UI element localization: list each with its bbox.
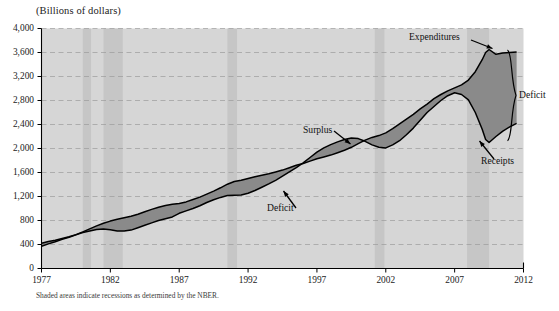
x-tick-label-2012: 2012	[502, 275, 546, 285]
x-tick-label-1997: 1997	[295, 275, 339, 285]
x-tick-label-2002: 2002	[364, 275, 408, 285]
y-tick-label-0: 0	[0, 263, 34, 273]
y-tick-label-4000: 4,000	[0, 23, 34, 33]
y-tick-label-800: 800	[0, 215, 34, 225]
y-tick-label-2800: 2,800	[0, 95, 34, 105]
x-tick-label-1977: 1977	[20, 275, 64, 285]
y-tick-label-3200: 3,200	[0, 71, 34, 81]
y-tick-label-3600: 3,600	[0, 47, 34, 57]
y-tick-label-2000: 2,000	[0, 143, 34, 153]
y-tick-label-1600: 1,600	[0, 167, 34, 177]
annotation-receipts: Receipts	[481, 155, 514, 166]
x-tick-label-1992: 1992	[226, 275, 270, 285]
x-tick-label-2007: 2007	[433, 275, 477, 285]
chart-canvas	[0, 0, 559, 311]
y-tick-label-400: 400	[0, 239, 34, 249]
annotation-deficit-brace: Deficit	[519, 89, 546, 100]
annotation-deficit-middle: Deficit	[267, 202, 294, 213]
y-tick-label-2400: 2,400	[0, 119, 34, 129]
x-tick-label-1987: 1987	[157, 275, 201, 285]
x-tick-label-1982: 1982	[88, 275, 132, 285]
annotation-expenditures: Expenditures	[409, 31, 460, 42]
annotation-surplus: Surplus	[303, 124, 332, 135]
y-tick-label-1200: 1,200	[0, 191, 34, 201]
figure-federal-receipts-expenditures: (Billions of dollars) Shaded areas indic…	[0, 0, 559, 311]
